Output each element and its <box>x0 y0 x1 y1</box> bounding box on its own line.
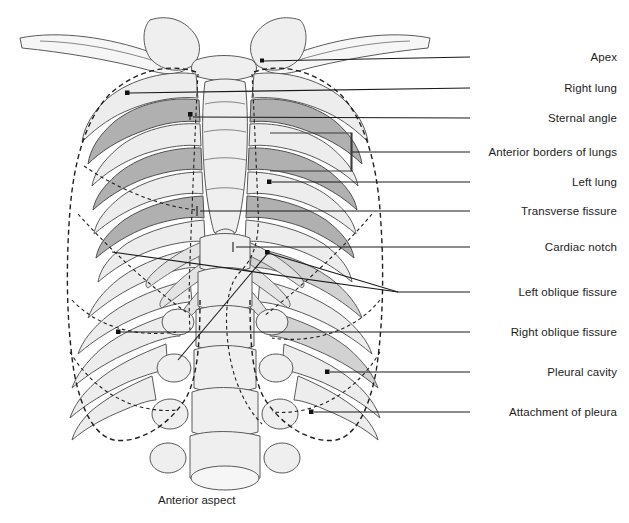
manubrium-top <box>192 56 257 81</box>
figure-caption: Anterior aspect <box>158 494 235 506</box>
label-cardiac-notch: Cardiac notch <box>545 241 617 253</box>
leader-pleural-cavity <box>325 370 470 375</box>
label-right-lung: Right lung <box>564 82 617 94</box>
vertebral-column <box>150 234 300 491</box>
label-right-oblique-fissure: Right oblique fissure <box>511 326 617 338</box>
label-attachment-of-pleura: Attachment of pleura <box>509 406 617 418</box>
label-transverse-fissure: Transverse fissure <box>521 205 617 217</box>
label-left-oblique-fissure: Left oblique fissure <box>518 286 617 298</box>
skeleton-illustration <box>20 18 430 490</box>
label-apex: Apex <box>590 51 617 63</box>
label-left-lung: Left lung <box>572 176 617 188</box>
label-pleural-cavity: Pleural cavity <box>547 366 617 378</box>
label-anterior-borders-of-lungs: Anterior borders of lungs <box>489 146 617 158</box>
label-sternal-angle: Sternal angle <box>548 112 617 124</box>
thorax-anatomy-figure: .bone { fill:#efefef; stroke:#5a5a5a; st… <box>0 0 629 523</box>
